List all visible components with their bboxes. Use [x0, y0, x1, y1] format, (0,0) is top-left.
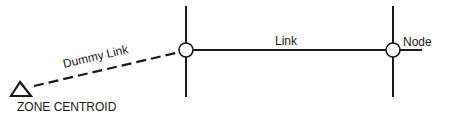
network-diagram: Dummy Link Link Node ZONE CENTROID [0, 0, 452, 119]
link-label: Link [275, 34, 298, 48]
node-label: Node [403, 35, 432, 49]
right-node-circle [386, 43, 400, 57]
zone-centroid-triangle-icon [11, 82, 31, 96]
dummy-link-label: Dummy Link [62, 42, 131, 71]
left-node-circle [179, 43, 193, 57]
zone-centroid-label: ZONE CENTROID [17, 100, 117, 114]
